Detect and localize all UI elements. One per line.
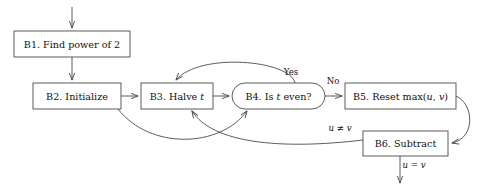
edge-label-u-eq-v-op: =	[408, 160, 421, 170]
node-b2-label: B2. Initialize	[46, 91, 108, 102]
node-b5-label-text: B5. Reset max(	[353, 91, 427, 102]
node-b4-label: B4. Is t even?	[245, 91, 311, 102]
flowchart-diagram: B1. Find power of 2 B2. Initialize B3. H…	[0, 0, 491, 190]
node-b3-label-text: B3. Halve	[150, 91, 201, 102]
node-b1[interactable]: B1. Find power of 2	[14, 31, 130, 57]
node-b4[interactable]: B4. Is t even?	[232, 83, 325, 109]
node-b3-label: B3. Halve t	[150, 91, 205, 102]
node-b6[interactable]: B6. Subtract	[363, 131, 448, 156]
node-b3-label-var: t	[200, 91, 204, 102]
node-b2[interactable]: B2. Initialize	[33, 83, 121, 109]
edge-label-no: No	[327, 76, 340, 86]
edge-label-u-eq-v-b: v	[421, 160, 426, 170]
edge-b2-to-b4	[118, 109, 247, 139]
edge-label-u-neq-v-op: ≠	[334, 123, 347, 133]
node-b5[interactable]: B5. Reset max(u, v)	[345, 83, 456, 109]
edge-label-u-eq-v: u = v	[402, 160, 425, 170]
node-b5-label: B5. Reset max(u, v)	[353, 91, 448, 102]
edge-label-u-neq-v: u ≠ v	[328, 123, 351, 133]
node-b3[interactable]: B3. Halve t	[141, 83, 213, 109]
flowchart-canvas: B1. Find power of 2 B2. Initialize B3. H…	[0, 0, 491, 190]
node-b4-label-text: B4. Is	[245, 91, 276, 102]
edge-b4-to-b3-yes	[176, 62, 295, 83]
edge-label-yes: Yes	[283, 67, 298, 77]
node-b1-label: B1. Find power of 2	[24, 39, 120, 50]
node-b4-label-tail: even?	[280, 91, 311, 102]
edge-label-u-neq-v-b: v	[347, 123, 352, 133]
node-b5-label-tail: )	[444, 91, 448, 102]
node-b6-label: B6. Subtract	[375, 138, 437, 149]
